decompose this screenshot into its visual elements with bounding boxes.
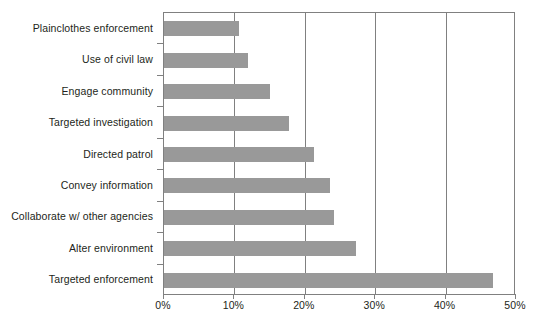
x-axis-tick-label: 30%: [364, 299, 385, 312]
bar: [164, 147, 314, 162]
y-axis-label-3: Targeted investigation: [0, 116, 153, 128]
y-axis-label-8: Targeted enforcement: [0, 273, 153, 285]
y-axis-category-labels: Plainclothes enforcement Use of civil la…: [0, 12, 153, 295]
bar-chart: Plainclothes enforcement Use of civil la…: [0, 0, 546, 333]
y-axis-label-7: Alter environment: [0, 242, 153, 254]
x-axis-tick-labels: 0%10%20%30%40%50%: [0, 299, 546, 317]
bar: [164, 84, 270, 99]
y-axis-label-0: Plainclothes enforcement: [0, 22, 153, 34]
bar: [164, 21, 239, 36]
y-axis-label-5: Convey information: [0, 179, 153, 191]
y-axis-label-1: Use of civil law: [0, 53, 153, 65]
plot-area: [163, 12, 515, 295]
x-axis-tick-label: 10%: [223, 299, 244, 312]
bar: [164, 178, 330, 193]
bar: [164, 210, 334, 225]
gridline: [375, 13, 376, 294]
x-axis-tick-label: 50%: [504, 299, 525, 312]
bar: [164, 241, 356, 256]
x-axis-tick-label: 40%: [434, 299, 455, 312]
gridline: [446, 13, 447, 294]
bar: [164, 53, 248, 68]
y-axis-label-2: Engage community: [0, 85, 153, 97]
y-axis-label-6: Collaborate w/ other agencies: [0, 210, 153, 222]
y-axis-label-4: Directed patrol: [0, 148, 153, 160]
bar: [164, 273, 493, 288]
x-axis-tick-label: 20%: [293, 299, 314, 312]
x-axis-tick-label: 0%: [155, 299, 170, 312]
bar: [164, 116, 289, 131]
